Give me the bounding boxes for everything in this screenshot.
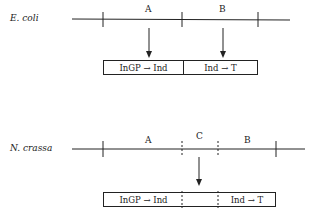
gene-label-c-ncrassa: C — [196, 131, 203, 141]
gene-label-a-ncrassa: A — [145, 135, 152, 145]
gene-label-a-ecoli: A — [145, 4, 152, 14]
enzyme-segment-b-ncrassa: Ind → T — [219, 193, 275, 206]
organism-label-ecoli: E. coli — [10, 13, 39, 23]
enzyme-segment-a-ncrassa: InGP → Ind — [104, 193, 183, 206]
enzyme-segment-b-ecoli: Ind → T — [183, 61, 258, 74]
enzyme-box-ncrassa: InGP → Ind Ind → T — [103, 192, 276, 207]
gene-label-b-ncrassa: B — [244, 135, 251, 145]
organism-label-ncrassa: N. crassa — [10, 143, 52, 153]
gene-label-b-ecoli: B — [219, 4, 226, 14]
diagram-lines — [0, 0, 310, 217]
enzyme-box-ecoli: InGP → Ind Ind → T — [103, 60, 258, 75]
enzyme-segment-c-ncrassa — [183, 193, 219, 206]
enzyme-segment-a-ecoli: InGP → Ind — [104, 61, 184, 74]
